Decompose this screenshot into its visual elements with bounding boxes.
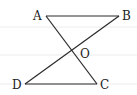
point-label-a: A <box>32 9 42 23</box>
point-label-o: O <box>80 47 90 61</box>
point-label-b: B <box>122 9 131 23</box>
point-label-c: C <box>100 78 109 92</box>
geometry-diagram: A B O D C <box>0 0 137 95</box>
segment-bd <box>25 16 119 84</box>
point-label-d: D <box>12 78 22 92</box>
